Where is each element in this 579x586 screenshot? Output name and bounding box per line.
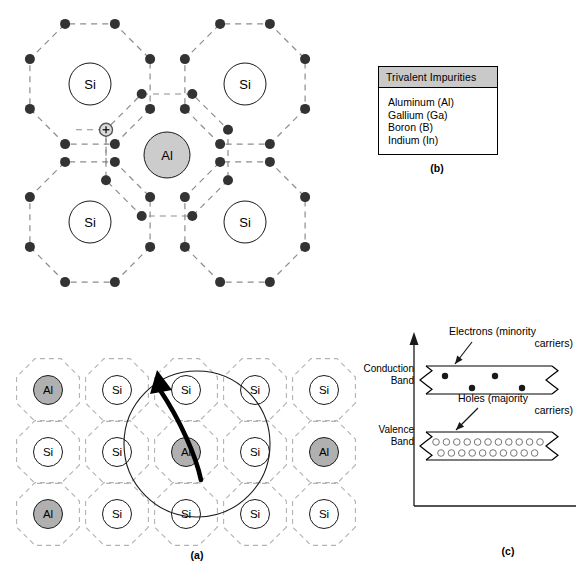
panel-label-a: (a) (167, 549, 227, 561)
callout-arrow-head (150, 370, 172, 394)
valence-electron (60, 139, 70, 149)
atom-label: Si (84, 215, 96, 230)
magnifier-svg (0, 270, 360, 550)
valence-electron (300, 54, 310, 64)
aluminum-atom: Al (144, 132, 190, 178)
valence-electron (25, 104, 35, 114)
hole-carrier (500, 450, 507, 457)
valence-electron (265, 139, 275, 149)
hole-carrier (490, 450, 497, 457)
list-item: Gallium (Ga) (388, 109, 497, 122)
valence-electron (145, 104, 155, 114)
panel-label-c: (c) (478, 545, 538, 557)
hole-carrier (464, 439, 471, 446)
hole-carrier (438, 450, 445, 457)
hole-carrier (521, 450, 528, 457)
atom-label: Al (161, 148, 173, 163)
table-body: Aluminum (Al) Gallium (Ga) Boron (B) Ind… (379, 88, 497, 154)
band-edge-left (420, 432, 432, 460)
valence-electron (25, 242, 35, 252)
valence-electron (137, 211, 147, 221)
valence-electron (60, 157, 70, 167)
valence-electron (110, 19, 120, 29)
valence-electron (265, 19, 275, 29)
valence-electron (180, 104, 190, 114)
valence-electron (60, 19, 70, 29)
band-edge-right (546, 366, 558, 394)
hole-carrier (479, 450, 486, 457)
valence-electron (145, 54, 155, 64)
valence-electron (265, 157, 275, 167)
valence-electron (223, 125, 233, 135)
valence-electron (187, 211, 197, 221)
atom-label: Si (84, 77, 96, 92)
magnified-bonding-svg: SiSiSiSiAl (8, 8, 348, 293)
valence-electron (187, 89, 197, 99)
valence-electron (215, 139, 225, 149)
magnifier-circle (124, 371, 270, 517)
energy-band-svg (400, 326, 579, 526)
valence-band (420, 432, 558, 460)
table-header: Trivalent Impurities (379, 67, 497, 88)
valence-electron (110, 139, 120, 149)
band-edge-left (420, 366, 432, 394)
list-item: Indium (In) (388, 134, 497, 147)
hole-carrier (459, 450, 466, 457)
valence-electron (300, 104, 310, 114)
magnified-bonding-panel: SiSiSiSiAl (8, 8, 348, 293)
valence-electron (145, 242, 155, 252)
valence-electron (215, 19, 225, 29)
energy-band-panel (400, 326, 579, 526)
hole-carrier (474, 439, 481, 446)
valence-electron (101, 175, 111, 185)
hole-carrier (537, 439, 544, 446)
panel-label-b: (b) (407, 162, 467, 174)
valence-electron (265, 277, 275, 287)
valence-electron (180, 192, 190, 202)
hole-carrier (485, 439, 492, 446)
silicon-atom: Si (69, 201, 111, 243)
band-edge-right (546, 432, 558, 460)
conduction-band (420, 366, 558, 394)
valence-electron (223, 175, 233, 185)
silicon-atom: Si (69, 63, 111, 105)
atom-label: Si (239, 215, 251, 230)
valence-electron (25, 54, 35, 64)
valence-electron (110, 277, 120, 287)
silicon-atom: Si (224, 63, 266, 105)
silicon-shell-bottom-left: Si (25, 157, 155, 287)
hole-carrier (531, 450, 538, 457)
valence-electron (215, 277, 225, 287)
electron-carrier (469, 385, 475, 391)
electron-carrier (519, 385, 525, 391)
electrons-minority-annotation: Electrons (minority carriers) (449, 325, 573, 349)
hole-carrier (433, 439, 440, 446)
hole-carrier (526, 439, 533, 446)
valence-band-label: Valence Band (346, 424, 414, 447)
valence-electron (110, 157, 120, 167)
silicon-atom: Si (224, 201, 266, 243)
atom-label: Si (239, 77, 251, 92)
hole-carrier (506, 439, 513, 446)
callout-arrow-shaft (160, 390, 201, 480)
valence-electron (145, 192, 155, 202)
valence-electron (180, 242, 190, 252)
holes-majority-annotation: Holes (majority carriers) (458, 392, 573, 416)
hole-carrier (495, 439, 502, 446)
valence-electron (300, 242, 310, 252)
hole-carrier (516, 439, 523, 446)
list-item: Boron (B) (388, 121, 497, 134)
axis-arrowhead (410, 332, 419, 345)
silicon-shell-bottom-right: Si (180, 157, 310, 287)
valence-electron (137, 89, 147, 99)
electron-carrier (442, 373, 448, 379)
silicon-shell-top-right: Si (180, 19, 310, 149)
valence-electron (300, 192, 310, 202)
valence-electron (60, 277, 70, 287)
hole-carrier (511, 450, 518, 457)
hole-carrier (469, 450, 476, 457)
electron-carrier (492, 373, 498, 379)
magnifier-layer (0, 270, 360, 550)
list-item: Aluminum (Al) (388, 96, 497, 109)
conduction-band-label: Conduction Band (346, 363, 414, 386)
